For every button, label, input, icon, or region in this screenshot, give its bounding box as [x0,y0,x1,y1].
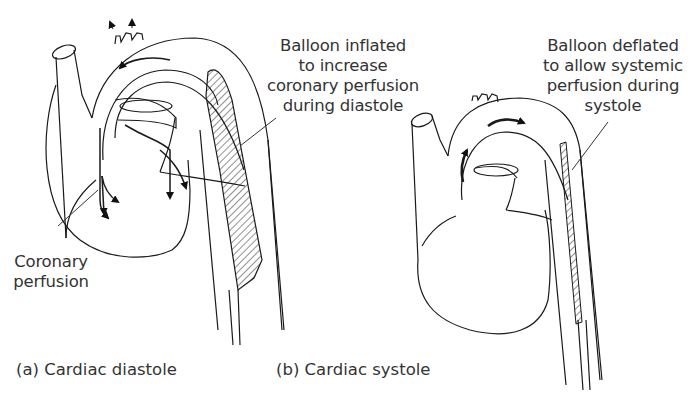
coronary-perfusion-label: Coronary perfusion [6,252,96,292]
label-line: perfusion during [528,76,698,96]
label-line: to increase [256,56,430,76]
label-line: Balloon deflated [528,36,698,56]
balloon-b-leader [572,122,608,170]
heart-diastole [46,20,284,345]
deflated-balloon [560,142,582,324]
label-line: coronary perfusion [256,76,430,96]
label-line: during diastole [256,96,430,116]
balloon-inflated-label: Balloon inflated to increase coronary pe… [256,36,430,116]
balloon-a-leader [240,118,276,146]
caption-b: (b) Cardiac systole [276,360,430,379]
label-line: to allow systemic [528,56,698,76]
caption-a: (a) Cardiac diastole [16,360,177,379]
label-line: perfusion [6,272,96,292]
inflated-balloon [206,70,262,290]
label-line: Balloon inflated [256,36,430,56]
balloon-deflated-label: Balloon deflated to allow systemic perfu… [528,36,698,116]
label-line: systole [528,96,698,116]
label-line: Coronary [6,252,96,272]
